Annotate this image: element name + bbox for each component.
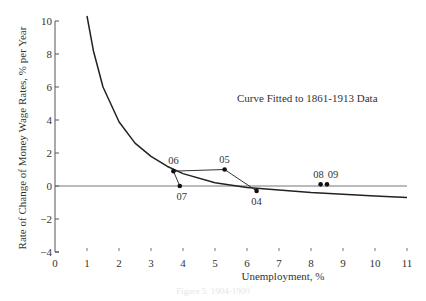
data-point-05	[222, 167, 227, 172]
x-tick-label: 3	[148, 257, 154, 269]
observed-points: 040506070809	[168, 154, 338, 207]
y-axis-label: Rate of Change of Money Wage Rates, % pe…	[16, 26, 28, 249]
y-tick-label: 10	[41, 15, 53, 27]
point-label-09: 09	[328, 169, 339, 180]
x-tick-label: 10	[370, 257, 382, 269]
x-tick-label: 9	[340, 257, 346, 269]
x-tick-label: 6	[244, 257, 250, 269]
x-tick-label: 11	[402, 257, 413, 269]
curve-annotation: Curve Fitted to 1861-1913 Data	[237, 92, 378, 104]
figure-caption: Figure 5. 1904-1909	[0, 286, 426, 296]
x-tick-label: 2	[116, 257, 122, 269]
data-point-04	[254, 189, 259, 194]
point-label-05: 05	[219, 154, 230, 165]
x-tick-label: 8	[308, 257, 314, 269]
y-tick-label: 4	[47, 114, 53, 126]
data-point-08	[318, 182, 323, 187]
phillips-curve-chart: 1086420−2−401234567891011 040506070809 C…	[0, 0, 426, 301]
x-axis-label: Unemployment, %	[241, 270, 324, 282]
x-tick-label: 7	[276, 257, 282, 269]
point-label-07: 07	[177, 191, 188, 202]
y-tick-label: −2	[40, 213, 52, 225]
point-label-04: 04	[251, 196, 262, 207]
y-tick-label: 2	[47, 147, 53, 159]
y-tick-label: −4	[40, 246, 52, 258]
fitted-curve	[87, 16, 407, 198]
data-point-09	[325, 182, 330, 187]
x-tick-label: 0	[52, 257, 58, 269]
x-tick-label: 5	[212, 257, 218, 269]
y-tick-label: 0	[47, 180, 53, 192]
y-tick-label: 6	[47, 81, 53, 93]
axes: 1086420−2−401234567891011	[40, 15, 412, 269]
point-label-06: 06	[168, 155, 179, 166]
x-tick-label: 1	[84, 257, 90, 269]
data-point-06	[171, 169, 176, 174]
x-tick-label: 4	[180, 257, 186, 269]
point-label-08: 08	[313, 169, 324, 180]
y-tick-label: 8	[47, 48, 53, 60]
data-point-07	[178, 184, 183, 189]
